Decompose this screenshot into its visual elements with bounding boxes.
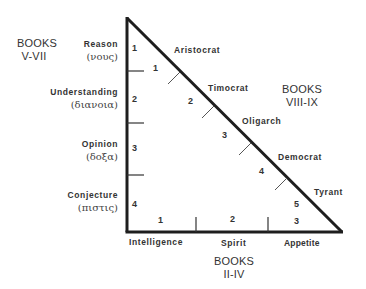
books-bottom-label: BOOKS II-IV — [214, 256, 254, 280]
faculty-understanding: Understanding (διανοια) — [50, 88, 118, 110]
regime-num: 1 — [153, 64, 158, 73]
faculty-conjecture: Conjecture (πιστις) — [68, 191, 118, 213]
diagonal-tick — [239, 143, 251, 155]
faculty-num: 2 — [132, 95, 137, 104]
diagonal-tick — [202, 106, 214, 118]
soul-num: 1 — [158, 216, 163, 225]
faculty-reason: Reason (νους) — [84, 40, 118, 62]
diagonal-tick — [168, 72, 180, 84]
regime-num: 2 — [188, 97, 193, 106]
soul-num: 2 — [230, 215, 235, 224]
hypotenuse — [127, 18, 342, 232]
soul-spirit: Spirit — [221, 239, 246, 248]
faculty-num: 4 — [132, 200, 137, 209]
regime-num: 3 — [222, 131, 227, 140]
regime-num: 4 — [259, 167, 264, 176]
regime-tyrant: Tyrant — [314, 188, 343, 197]
diagonal-tick — [275, 178, 287, 190]
soul-appetite: Appetite — [284, 239, 320, 248]
regime-num: 5 — [294, 200, 299, 209]
books-right-label: BOOKS VIII-IX — [282, 84, 322, 108]
books-left-label: BOOKS V-VII — [17, 38, 51, 62]
soul-intelligence: Intelligence — [129, 238, 183, 247]
regime-oligarch: Oligarch — [242, 117, 281, 126]
faculty-num: 3 — [132, 144, 137, 153]
faculty-num: 1 — [132, 44, 137, 53]
regime-aristocrat: Aristocrat — [174, 46, 220, 55]
faculty-opinion: Opinion (δοξα) — [82, 140, 118, 162]
soul-num: 3 — [294, 217, 299, 226]
regime-timocrat: Timocrat — [208, 84, 249, 93]
regime-democrat: Democrat — [278, 153, 322, 162]
